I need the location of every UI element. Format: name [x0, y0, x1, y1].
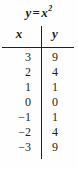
cell-x: −1	[0, 110, 38, 125]
cell-y: 4	[42, 65, 68, 80]
cell-y: 9	[42, 140, 68, 155]
table-row: −3 9	[0, 140, 78, 155]
table-row: 2 4	[0, 65, 78, 80]
cell-x: 0	[0, 95, 38, 110]
cell-y: 4	[42, 125, 68, 140]
table-row: 1 1	[0, 80, 78, 95]
title-variable-y: y	[26, 5, 32, 20]
table-title: y=x2	[0, 6, 78, 20]
header-horizontal-rule	[2, 47, 74, 48]
cell-x: 3	[0, 50, 38, 65]
table-body: 3 9 2 4 1 1 0 0 −1 1 −2 4 −3 9	[0, 50, 78, 155]
column-header-y: y	[42, 25, 68, 42]
cell-y: 0	[42, 95, 68, 110]
title-equals-sign: =	[32, 5, 42, 20]
column-header-x: x	[0, 25, 38, 42]
title-exponent: 2	[48, 4, 52, 13]
cell-x: −3	[0, 140, 38, 155]
cell-x: −2	[0, 125, 38, 140]
cell-y: 1	[42, 110, 68, 125]
cell-y: 1	[42, 80, 68, 95]
table-row: −1 1	[0, 110, 78, 125]
table-header-row: x y	[0, 25, 78, 42]
cell-y: 9	[42, 50, 68, 65]
table-row: 3 9	[0, 50, 78, 65]
function-table-figure: y=x2 x y 3 9 2 4 1 1 0 0 −1 1 −2 4	[0, 0, 78, 169]
cell-x: 1	[0, 80, 38, 95]
cell-x: 2	[0, 65, 38, 80]
table-row: −2 4	[0, 125, 78, 140]
table-row: 0 0	[0, 95, 78, 110]
